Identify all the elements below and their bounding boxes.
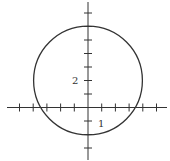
coordinate-plane: 2 1: [0, 0, 170, 161]
x-tick-label-1: 1: [98, 118, 104, 129]
y-tick-label-2: 2: [72, 75, 78, 86]
